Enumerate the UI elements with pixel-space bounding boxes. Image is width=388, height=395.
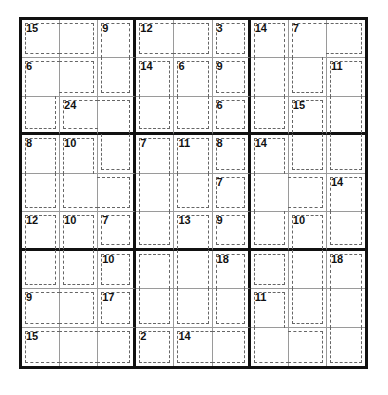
cell-r6c2[interactable]: 10 — [60, 212, 98, 250]
cell-r3c3[interactable] — [98, 97, 136, 135]
cell-r5c7[interactable] — [251, 174, 289, 212]
cage-sum-label: 15 — [293, 100, 305, 111]
cell-r6c1[interactable]: 12 — [22, 212, 60, 250]
cage-outline — [292, 288, 323, 323]
cage-sum-label: 9 — [217, 61, 223, 72]
cell-r2c2[interactable] — [60, 58, 98, 96]
cell-r1c8[interactable]: 7 — [289, 20, 327, 58]
cage-sum-label: 3 — [217, 23, 223, 34]
cell-r3c9[interactable] — [327, 97, 365, 135]
cage-outline — [101, 57, 130, 92]
cell-r2c1[interactable]: 6 — [22, 58, 60, 96]
cell-r4c5[interactable]: 11 — [174, 135, 212, 173]
cage-sum-label: 6 — [217, 100, 223, 111]
cage-sum-label: 17 — [102, 292, 114, 303]
cell-r4c1[interactable]: 8 — [22, 135, 60, 173]
cage-sum-label: 15 — [26, 23, 38, 34]
cell-r2c5[interactable]: 6 — [174, 58, 212, 96]
cell-r4c4[interactable]: 7 — [136, 135, 174, 173]
cell-r9c7[interactable] — [251, 328, 289, 366]
cell-r8c2[interactable] — [60, 289, 98, 327]
cell-r9c5[interactable]: 14 — [174, 328, 212, 366]
cell-r7c7[interactable] — [251, 251, 289, 289]
cell-r8c7[interactable]: 11 — [251, 289, 289, 327]
cage-sum-label: 11 — [331, 61, 343, 72]
cell-r2c4[interactable]: 14 — [136, 58, 174, 96]
cell-r7c9[interactable]: 18 — [327, 251, 365, 289]
cell-r3c6[interactable]: 6 — [213, 97, 251, 135]
cage-outline — [254, 96, 285, 129]
cell-r8c4[interactable] — [136, 289, 174, 327]
cell-r6c8[interactable]: 10 — [289, 212, 327, 250]
cell-r6c4[interactable] — [136, 212, 174, 250]
cell-r6c5[interactable]: 13 — [174, 212, 212, 250]
cell-r8c1[interactable]: 9 — [22, 289, 60, 327]
cell-r5c5[interactable] — [174, 174, 212, 212]
cell-r3c1[interactable] — [22, 97, 60, 135]
cell-r1c4[interactable]: 12 — [136, 20, 174, 58]
cell-r2c7[interactable] — [251, 58, 289, 96]
cell-r8c5[interactable] — [174, 289, 212, 327]
cell-r9c1[interactable]: 15 — [22, 328, 60, 366]
cell-r1c9[interactable] — [327, 20, 365, 58]
cell-r6c7[interactable] — [251, 212, 289, 250]
cell-r5c2[interactable] — [60, 174, 98, 212]
cage-sum-label: 14 — [178, 331, 190, 342]
cage-sum-label: 24 — [64, 100, 76, 111]
cell-r5c6[interactable]: 7 — [213, 174, 251, 212]
cell-r3c8[interactable]: 15 — [289, 97, 327, 135]
cell-r2c8[interactable] — [289, 58, 327, 96]
cell-r3c4[interactable] — [136, 97, 174, 135]
cell-r2c9[interactable]: 11 — [327, 58, 365, 96]
cell-r1c5[interactable] — [174, 20, 212, 58]
cell-r7c3[interactable]: 10 — [98, 251, 136, 289]
cage-outline — [101, 134, 130, 169]
cell-r4c8[interactable] — [289, 135, 327, 173]
cage-sum-label: 6 — [26, 61, 32, 72]
cage-outline — [59, 61, 94, 92]
cell-r4c2[interactable]: 10 — [60, 135, 98, 173]
cell-r3c7[interactable] — [251, 97, 289, 135]
cell-r7c6[interactable]: 18 — [213, 251, 251, 289]
cell-r5c1[interactable] — [22, 174, 60, 212]
cell-r9c4[interactable]: 2 — [136, 328, 174, 366]
cage-outline — [139, 288, 170, 323]
cell-r1c1[interactable]: 15 — [22, 20, 60, 58]
cell-r7c2[interactable] — [60, 251, 98, 289]
cell-r5c3[interactable] — [98, 174, 136, 212]
cell-r8c6[interactable] — [213, 289, 251, 327]
cell-r6c6[interactable]: 9 — [213, 212, 251, 250]
cell-r9c9[interactable] — [327, 328, 365, 366]
cell-r4c9[interactable] — [327, 135, 365, 173]
cell-r1c2[interactable] — [60, 20, 98, 58]
cell-r4c7[interactable]: 14 — [251, 135, 289, 173]
cage-outline — [177, 250, 208, 289]
cell-r2c3[interactable] — [98, 58, 136, 96]
cell-r7c8[interactable] — [289, 251, 327, 289]
cell-r5c9[interactable]: 14 — [327, 174, 365, 212]
cell-r9c6[interactable] — [213, 328, 251, 366]
cell-r7c1[interactable] — [22, 251, 60, 289]
cell-r8c3[interactable]: 17 — [98, 289, 136, 327]
cage-outline — [330, 327, 362, 363]
cell-r3c5[interactable] — [174, 97, 212, 135]
cell-r5c4[interactable] — [136, 174, 174, 212]
cell-r8c8[interactable] — [289, 289, 327, 327]
cage-sum-label: 13 — [178, 215, 190, 226]
cell-r5c8[interactable] — [289, 174, 327, 212]
cell-r1c3[interactable]: 9 — [98, 20, 136, 58]
cell-r6c9[interactable] — [327, 212, 365, 250]
cell-r4c3[interactable] — [98, 135, 136, 173]
cell-r1c7[interactable]: 14 — [251, 20, 289, 58]
cell-r9c2[interactable] — [60, 328, 98, 366]
cell-r9c8[interactable] — [289, 328, 327, 366]
cell-r9c3[interactable] — [98, 328, 136, 366]
cell-r4c6[interactable]: 8 — [213, 135, 251, 173]
cell-r8c9[interactable] — [327, 289, 365, 327]
cell-r7c4[interactable] — [136, 251, 174, 289]
cell-r2c6[interactable]: 9 — [213, 58, 251, 96]
cell-r1c6[interactable]: 3 — [213, 20, 251, 58]
cell-r3c2[interactable]: 24 — [60, 97, 98, 135]
cell-r7c5[interactable] — [174, 251, 212, 289]
cell-r6c3[interactable]: 7 — [98, 212, 136, 250]
